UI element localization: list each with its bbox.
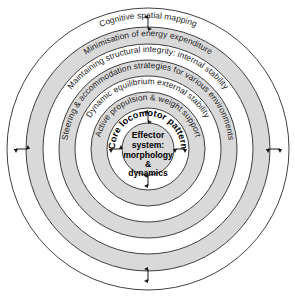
center-line-1: Effector — [132, 130, 165, 140]
figure-canvas: Cognitive spatial mapping Minimisation o… — [0, 0, 295, 300]
center-line-4: & — [145, 159, 151, 169]
center-line-2: system: — [132, 140, 165, 150]
concentric-rings-diagram: Cognitive spatial mapping Minimisation o… — [0, 0, 295, 300]
